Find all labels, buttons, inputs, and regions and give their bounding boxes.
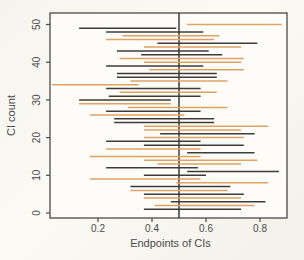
y-axis-title: CI count (5, 95, 17, 136)
ci-figure: 0.20.40.60.801020304050Endpoints of CIsC… (0, 0, 304, 260)
y-axis-tick-label: 20 (31, 132, 42, 144)
x-axis-tick-label: 0.6 (199, 223, 213, 234)
x-axis-tick-label: 0.8 (253, 223, 267, 234)
x-axis-tick-label: 0.4 (145, 223, 159, 234)
x-axis-tick-label: 0.2 (91, 223, 105, 234)
x-axis-title: Endpoints of CIs (130, 237, 211, 249)
y-axis-tick-label: 0 (31, 210, 42, 216)
y-axis-tick-label: 40 (31, 56, 42, 68)
y-axis-tick-label: 30 (31, 94, 42, 106)
ci-chart: 0.20.40.60.801020304050Endpoints of CIsC… (0, 0, 304, 260)
y-axis-tick-label: 10 (31, 169, 42, 181)
y-axis-tick-label: 50 (31, 19, 42, 31)
